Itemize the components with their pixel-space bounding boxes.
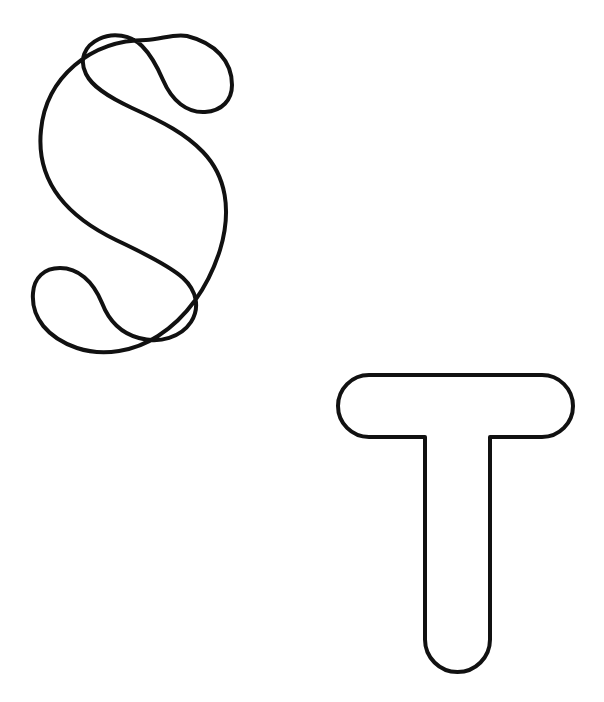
letters-illustration bbox=[0, 0, 604, 702]
coloring-page-canvas bbox=[0, 0, 604, 702]
